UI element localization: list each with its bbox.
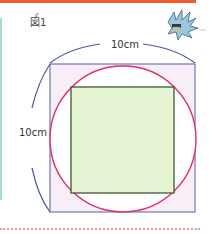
left-dimension-label: 10cm: [19, 127, 47, 138]
svg-text:,,,: ,,,: [200, 24, 206, 31]
inner-square: [71, 87, 174, 193]
top-dimension-arc-right: [143, 44, 195, 63]
left-dimension-arc-top: [32, 64, 50, 108]
top-dimension-label: 10cm: [111, 39, 139, 50]
left-dimension-arc-bottom: [32, 168, 50, 212]
square-circle-diagram: 10cm 10cm ,,,: [0, 0, 213, 234]
bird-mascot-icon: ,,,: [168, 10, 206, 40]
dotted-divider: [0, 228, 200, 230]
top-dimension-arc-left: [50, 44, 100, 63]
